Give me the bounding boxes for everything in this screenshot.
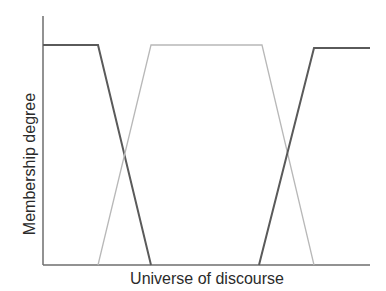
right-shoulder-curve <box>259 48 370 265</box>
membership-function-diagram: Universe of discourse Membership degree <box>0 0 386 291</box>
middle-trapezoid-curve <box>98 45 314 265</box>
x-axis-label: Universe of discourse <box>130 270 284 287</box>
left-shoulder-curve <box>43 45 151 265</box>
y-axis-label: Membership degree <box>21 93 38 235</box>
